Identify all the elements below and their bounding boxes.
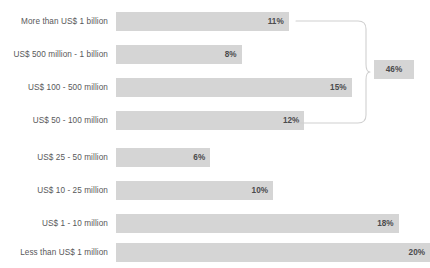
bar-value-label: 6% [116,148,205,167]
bar-track: 20% [116,243,430,262]
chart-row: Less than US$ 1 million 20% [0,243,430,262]
bar-value-label: 11% [116,12,284,31]
chart-row: US$ 10 - 25 million 10% [0,181,430,200]
bar-track: 18% [116,214,430,233]
chart-row: US$ 1 - 10 million 18% [0,214,430,233]
bar-track: 11% [116,12,430,31]
bar-track: 6% [116,148,430,167]
category-label: US$ 100 - 500 million [0,78,108,97]
category-label: US$ 500 million - 1 billion [0,45,108,64]
horizontal-bar-chart: More than US$ 1 billion 11% US$ 500 mill… [0,0,430,268]
bar-value-label: 8% [116,45,237,64]
bar-value-label: 10% [116,181,268,200]
category-label: More than US$ 1 billion [0,12,108,31]
category-label: US$ 50 - 100 million [0,111,108,130]
category-label: US$ 1 - 10 million [0,214,108,233]
group-bracket-icon [296,14,372,130]
bar-value-label: 12% [116,111,299,130]
bar-value-label: 20% [116,243,425,262]
category-label: US$ 10 - 25 million [0,181,108,200]
group-total-badge: 46% [374,60,414,79]
bar-value-label: 18% [116,214,394,233]
category-label: Less than US$ 1 million [0,243,108,262]
bar-track: 15% [116,78,430,97]
category-label: US$ 25 - 50 million [0,148,108,167]
chart-row: US$ 25 - 50 million 6% [0,148,430,167]
bar-track: 10% [116,181,430,200]
bar-track: 12% [116,111,430,130]
